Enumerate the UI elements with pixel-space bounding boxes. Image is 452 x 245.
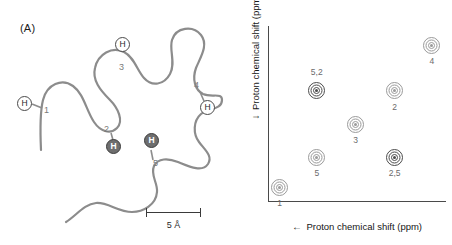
diagonal-peak-4[interactable] bbox=[423, 37, 440, 54]
residue-label-2: 2 bbox=[104, 124, 109, 134]
peak-label-5-2: 5,2 bbox=[311, 67, 323, 77]
peak-label-2: 2 bbox=[392, 102, 397, 112]
peak-label-1: 1 bbox=[277, 198, 282, 208]
y-axis-title-text: Proton chemical shift (ppm) bbox=[250, 0, 261, 110]
proton-circle-1: H bbox=[17, 96, 32, 111]
panel-b: (B) ↓ Proton chemical shift (ppm) 1 5 3 bbox=[226, 0, 452, 245]
scale-bar-cap-left bbox=[146, 208, 147, 217]
diagonal-peak-5[interactable] bbox=[308, 149, 325, 166]
scale-bar-label: 5 Å bbox=[146, 220, 201, 230]
cross-peak-5-2[interactable] bbox=[308, 82, 325, 99]
proton-circle-3: H bbox=[115, 37, 130, 52]
nmr-figure: (A) 1 2 3 4 5 H H H H H 5 Å (B) bbox=[0, 0, 452, 245]
proton-circle-4: H bbox=[200, 100, 215, 115]
spectrum-plot-area: 1 5 3 2 4 5,2 bbox=[268, 26, 446, 202]
x-axis-arrow-icon: ← bbox=[292, 221, 302, 232]
peak-label-3: 3 bbox=[353, 135, 358, 145]
diagonal-peak-2[interactable] bbox=[386, 82, 403, 99]
scale-bar-line bbox=[146, 212, 201, 213]
diagonal-peak-1[interactable] bbox=[271, 179, 288, 196]
x-axis-label: ← Proton chemical shift (ppm) bbox=[268, 216, 446, 234]
panel-a: (A) 1 2 3 4 5 H H H H H 5 Å bbox=[0, 0, 226, 245]
residue-label-5: 5 bbox=[153, 158, 158, 168]
residue-label-3: 3 bbox=[119, 62, 124, 72]
residue-label-4: 4 bbox=[194, 80, 199, 90]
peak-label-2-5: 2,5 bbox=[389, 168, 401, 178]
peak-label-5: 5 bbox=[314, 168, 319, 178]
proton-circle-2: H bbox=[106, 139, 121, 154]
cross-peak-2-5[interactable] bbox=[386, 149, 403, 166]
proton-circle-5: H bbox=[144, 133, 159, 148]
y-axis-label: ↓ Proton chemical shift (ppm) bbox=[245, 0, 263, 137]
residue-label-1: 1 bbox=[44, 105, 49, 115]
y-axis-arrow-icon: ↓ bbox=[250, 115, 261, 120]
scale-bar bbox=[146, 208, 201, 217]
x-axis-title-text: Proton chemical shift (ppm) bbox=[306, 221, 422, 232]
diagonal-peak-3[interactable] bbox=[347, 116, 364, 133]
scale-bar-cap-right bbox=[200, 208, 201, 217]
peak-label-4: 4 bbox=[429, 56, 434, 66]
